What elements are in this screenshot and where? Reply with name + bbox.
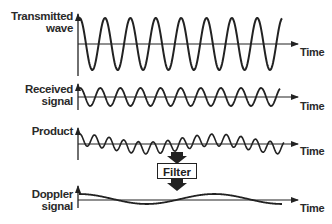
doppler-waveform [79,194,282,204]
waveform-diagram [0,0,332,224]
filter-box: Filter [157,163,197,179]
down-arrow-icon [167,179,187,191]
